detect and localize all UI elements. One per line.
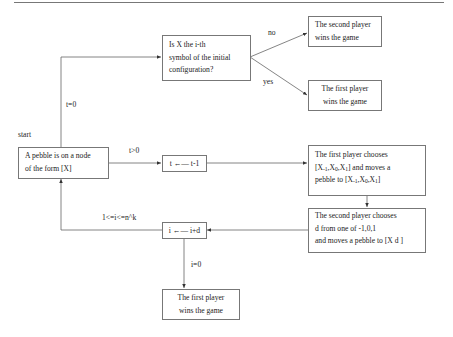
node-text: i ←— i+d <box>169 226 200 235</box>
node-second-player-chooses: The second player chooses d from one of … <box>308 208 426 253</box>
edge-label-no: no <box>268 28 276 37</box>
node-text-line: [X-1,X0,X1] and moves a <box>315 162 419 175</box>
node-text-line: The second player <box>315 19 375 32</box>
subscript: -1 <box>323 166 328 172</box>
node-text: pebble to [X <box>315 175 353 184</box>
node-text: t ←— t-1 <box>170 159 200 168</box>
node-text-line: pebble to [X-1,X0,X1] <box>315 174 419 187</box>
node-text-line: and moves a pebble to [X d ] <box>315 235 419 248</box>
node-question-line: Is X the i-th <box>169 39 244 52</box>
node-text-line: of the form [X] <box>25 163 102 176</box>
node-text-line: wins the game <box>315 96 375 109</box>
node-text-line: The first player chooses <box>315 149 419 162</box>
edge-label-i-zero: i=0 <box>191 260 201 269</box>
node-first-player-wins-bottom: The first player wins the game <box>162 289 240 320</box>
subscript: -1 <box>353 178 358 184</box>
subscript: 1 <box>345 166 348 172</box>
node-text-line: The first player <box>315 83 375 96</box>
node-text-line: The second player chooses <box>315 210 419 223</box>
edge-label-t-positive: t>0 <box>129 146 139 155</box>
edge-label-i-range: 1<=i<=n^k <box>102 213 136 222</box>
subscript: 0 <box>365 178 368 184</box>
edge-label-yes: yes <box>263 77 273 86</box>
subscript: 1 <box>375 178 378 184</box>
node-t-decrement: t ←— t-1 <box>162 155 207 172</box>
node-question: Is X the i-th symbol of the initial conf… <box>162 35 251 81</box>
node-question-line: symbol of the initial <box>169 52 244 65</box>
node-text-line: A pebble is on a node <box>25 150 102 163</box>
node-text-line: wins the game <box>169 305 233 318</box>
edge-label-t-zero: t=0 <box>66 100 76 109</box>
node-first-player-wins-top: The first player wins the game <box>308 80 382 111</box>
subscript: 0 <box>335 166 338 172</box>
node-pebble-start: A pebble is on a node of the form [X] <box>18 147 109 179</box>
node-text-line: The first player <box>169 292 233 305</box>
node-second-player-wins: The second player wins the game <box>308 16 382 47</box>
node-text: and moves a <box>352 163 390 172</box>
label-start: start <box>18 130 31 139</box>
node-i-update: i ←— i+d <box>162 222 207 239</box>
node-first-player-chooses: The first player chooses [X-1,X0,X1] and… <box>308 145 426 196</box>
node-text-line: d from one of -1,0,1 <box>315 223 419 236</box>
node-question-line: configuration? <box>169 64 244 77</box>
node-text-line: wins the game <box>315 32 375 45</box>
